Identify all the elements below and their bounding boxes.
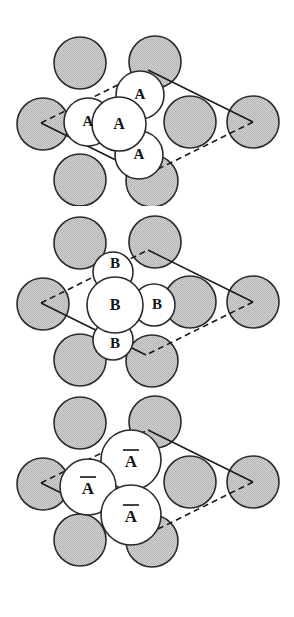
substrate-atom xyxy=(54,37,106,89)
adsorbate-atom xyxy=(93,320,133,360)
substrate-atom xyxy=(126,515,178,567)
substrate-atom xyxy=(54,217,106,269)
adsorbate-atom xyxy=(101,430,161,490)
substrate-atom xyxy=(17,458,69,510)
substrate-atom-group xyxy=(17,396,279,567)
adsorbate-label: B xyxy=(110,255,120,271)
adsorbate-label: A xyxy=(125,452,138,471)
panel-abar-content: A A A xyxy=(17,396,279,567)
panel-stacking-layer-A: A A A A xyxy=(0,0,294,206)
adsorbate-label-group: A A A xyxy=(80,450,139,526)
adsorbate-atom xyxy=(87,277,143,333)
adsorbate-label: B xyxy=(110,296,121,313)
substrate-atom xyxy=(164,96,216,148)
substrate-atom xyxy=(164,456,216,508)
substrate-atom xyxy=(54,514,106,566)
substrate-atom xyxy=(54,397,106,449)
adsorbate-atom xyxy=(93,252,133,292)
adsorbate-label: B xyxy=(152,296,162,312)
substrate-atom xyxy=(54,334,106,386)
adsorbate-label: A xyxy=(125,507,138,526)
adsorbate-atom-group xyxy=(87,252,175,360)
adsorbate-atom-group xyxy=(60,430,161,545)
adsorbate-atom xyxy=(101,485,161,545)
panel-a-canvas: A A A A xyxy=(0,0,294,206)
stacking-diagram-figure: A A A A xyxy=(0,0,294,617)
substrate-atom-group xyxy=(17,36,279,206)
substrate-atom-group xyxy=(17,216,279,387)
substrate-atom xyxy=(227,456,279,508)
adsorbate-atom xyxy=(60,459,116,515)
substrate-atom xyxy=(126,335,178,387)
adsorbate-label-group: B B B B xyxy=(110,255,162,351)
adsorbate-label: B xyxy=(110,335,120,351)
substrate-atom xyxy=(17,278,69,330)
adsorbate-label: A xyxy=(82,479,95,498)
adsorbate-atom xyxy=(133,284,175,326)
substrate-atom xyxy=(164,276,216,328)
substrate-atom xyxy=(54,154,106,206)
substrate-atom xyxy=(129,216,181,268)
substrate-atom xyxy=(227,276,279,328)
unit-cell-outline xyxy=(41,430,253,535)
unit-cell-outline xyxy=(41,250,253,355)
substrate-atom xyxy=(129,396,181,448)
adsorbate-atom xyxy=(92,97,146,151)
